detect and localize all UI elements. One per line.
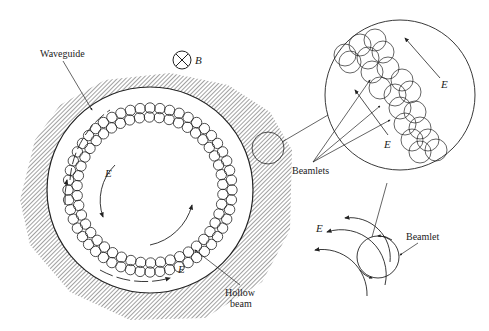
e-field-inner-label: E — [104, 167, 112, 179]
e-field-single-label: E — [315, 222, 323, 234]
magnify-leader-line — [282, 115, 328, 142]
beamlet-label: Beamlet — [406, 231, 440, 242]
beamlets-leaders — [313, 80, 390, 162]
hollow-beam-label-line1: Hollow — [225, 287, 256, 298]
single-beamlet — [315, 218, 399, 296]
hollow-beam-label-line2: beam — [230, 298, 252, 309]
beamlet-leader — [400, 243, 418, 255]
e-field-zoom-top-label: E — [440, 78, 448, 90]
single-beamlet-leader — [372, 183, 387, 237]
magnified-view — [325, 20, 475, 170]
e-field-outer-label: E — [177, 263, 185, 275]
e-field-zoom-mid-label: E — [383, 138, 391, 150]
waveguide-wall — [20, 73, 292, 320]
magnetic-field-label: B — [195, 54, 202, 66]
waveguide-label: Waveguide — [40, 48, 85, 59]
beamlets-label: Beamlets — [292, 165, 329, 176]
hollow-beam-diagram: E E Waveguide B Hollow beam E E Beamlets — [0, 0, 489, 331]
magnetic-field-into-page-icon — [173, 51, 191, 69]
